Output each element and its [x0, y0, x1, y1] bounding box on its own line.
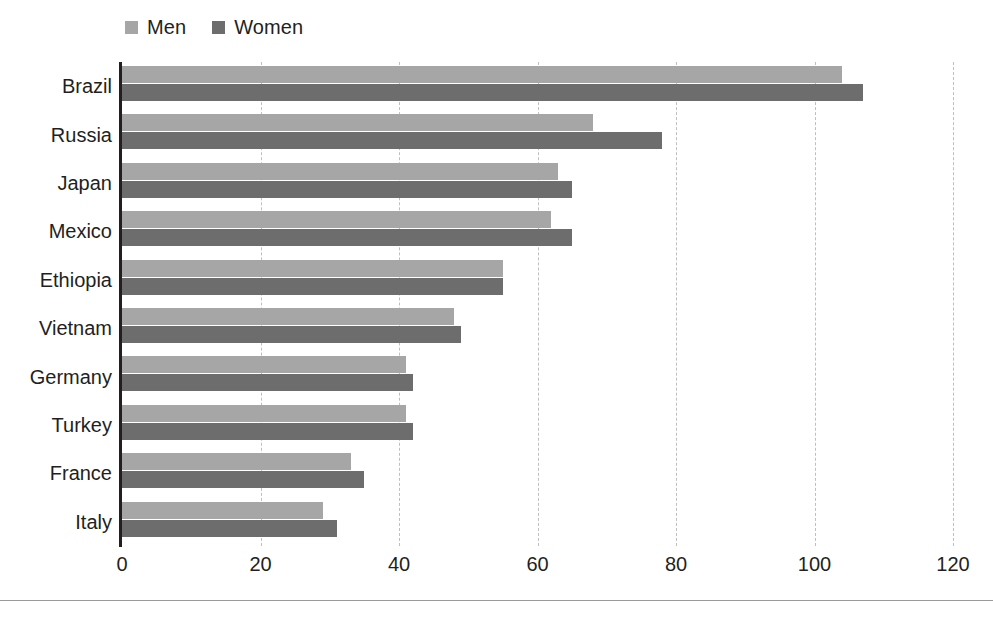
bar-group-italy — [122, 498, 953, 546]
x-axis-tick-labels: 020406080100120 — [122, 552, 953, 582]
y-axis-line — [119, 62, 122, 547]
y-tick-label-russia: Russia — [0, 124, 112, 146]
legend-swatch-men-icon — [125, 21, 138, 34]
bar-turkey-men[interactable] — [122, 405, 406, 422]
bar-brazil-men[interactable] — [122, 66, 842, 83]
bar-turkey-women[interactable] — [122, 423, 413, 440]
bar-ethiopia-women[interactable] — [122, 278, 503, 295]
bar-vietnam-men[interactable] — [122, 308, 454, 325]
bar-group-france — [122, 449, 953, 497]
x-tick-label-120: 120 — [936, 552, 969, 576]
x-tick-label-80: 80 — [665, 552, 687, 576]
legend-item-men[interactable]: Men — [125, 17, 186, 37]
bar-mexico-men[interactable] — [122, 211, 551, 228]
bar-germany-women[interactable] — [122, 374, 413, 391]
legend-swatch-women-icon — [212, 21, 225, 34]
bar-group-brazil — [122, 62, 953, 110]
bar-brazil-women[interactable] — [122, 84, 863, 101]
plot-area — [122, 62, 953, 546]
bar-group-mexico — [122, 207, 953, 255]
y-tick-label-germany: Germany — [0, 366, 112, 388]
bar-germany-men[interactable] — [122, 356, 406, 373]
bar-group-vietnam — [122, 304, 953, 352]
bar-france-men[interactable] — [122, 453, 351, 470]
gridline-120 — [953, 62, 954, 546]
bar-japan-men[interactable] — [122, 163, 558, 180]
bar-group-ethiopia — [122, 256, 953, 304]
legend-label-women: Women — [234, 17, 303, 37]
y-tick-label-vietnam: Vietnam — [0, 317, 112, 339]
y-tick-label-france: France — [0, 462, 112, 484]
bar-group-russia — [122, 110, 953, 158]
y-tick-label-ethiopia: Ethiopia — [0, 269, 112, 291]
x-tick-label-20: 20 — [249, 552, 271, 576]
x-tick-label-40: 40 — [388, 552, 410, 576]
bar-russia-women[interactable] — [122, 132, 662, 149]
y-tick-label-turkey: Turkey — [0, 414, 112, 436]
bar-vietnam-women[interactable] — [122, 326, 461, 343]
chart-legend: Men Women — [125, 12, 303, 42]
x-tick-label-60: 60 — [526, 552, 548, 576]
bottom-divider — [0, 600, 993, 601]
y-tick-label-italy: Italy — [0, 511, 112, 533]
legend-item-women[interactable]: Women — [212, 17, 303, 37]
bar-russia-men[interactable] — [122, 114, 593, 131]
bar-chart: Men Women BrazilRussiaJapanMexicoEthiopi… — [0, 0, 993, 619]
x-tick-label-0: 0 — [116, 552, 127, 576]
bar-group-turkey — [122, 401, 953, 449]
bar-italy-women[interactable] — [122, 520, 337, 537]
bar-france-women[interactable] — [122, 471, 364, 488]
y-tick-label-brazil: Brazil — [0, 75, 112, 97]
bar-group-germany — [122, 352, 953, 400]
y-axis-category-labels: BrazilRussiaJapanMexicoEthiopiaVietnamGe… — [0, 62, 112, 546]
bar-mexico-women[interactable] — [122, 229, 572, 246]
y-tick-label-japan: Japan — [0, 172, 112, 194]
x-tick-label-100: 100 — [798, 552, 831, 576]
bar-japan-women[interactable] — [122, 181, 572, 198]
legend-label-men: Men — [147, 17, 186, 37]
bar-group-japan — [122, 159, 953, 207]
y-tick-label-mexico: Mexico — [0, 220, 112, 242]
bar-ethiopia-men[interactable] — [122, 260, 503, 277]
bar-italy-men[interactable] — [122, 502, 323, 519]
